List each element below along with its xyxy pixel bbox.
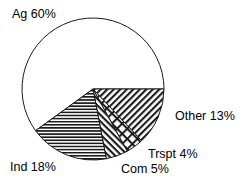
pie-label-trspt: Trspt 4%: [148, 148, 198, 161]
pie-label-other: Other 13%: [175, 110, 235, 123]
pie-label-com: Com 5%: [121, 163, 169, 176]
pie-label-ag: Ag 60%: [12, 8, 56, 21]
pie-slices: [22, 18, 164, 160]
pie-chart: Ag 60% Other 13% Trspt 4% Com 5% Ind 18%: [0, 0, 245, 183]
pie-label-ind: Ind 18%: [10, 161, 56, 174]
pie-chart-canvas: [0, 0, 245, 183]
